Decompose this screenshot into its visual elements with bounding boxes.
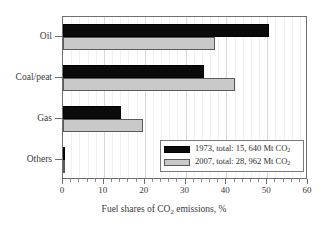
x-tick-label-60: 60 xyxy=(295,185,319,196)
bar-coal-peat-2007 xyxy=(63,78,235,91)
x-tick-minor xyxy=(95,179,96,182)
y-tick-label-oil: Oil xyxy=(40,31,52,41)
x-tick-minor xyxy=(87,179,88,182)
bar-oil-1973 xyxy=(63,24,269,37)
co2-subscript: 2 xyxy=(287,160,290,166)
legend-swatch-1973 xyxy=(164,146,190,153)
x-tick-major xyxy=(225,179,226,184)
x-tick-minor xyxy=(111,179,112,182)
legend-label-1973: 1973, total: 15, 640 Mt CO2 xyxy=(195,144,290,155)
x-tick-minor xyxy=(136,179,137,182)
y-tick-label-gas: Gas xyxy=(37,113,52,123)
x-tick-minor xyxy=(193,179,194,182)
x-tick-major xyxy=(185,179,186,184)
bar-gas-1973 xyxy=(63,106,121,119)
x-tick-minor xyxy=(283,179,284,182)
x-tick-label-50: 50 xyxy=(254,185,278,196)
legend-swatch-2007 xyxy=(164,159,190,166)
x-tick-minor xyxy=(70,179,71,182)
x-tick-label-40: 40 xyxy=(213,185,237,196)
y-tick xyxy=(55,159,63,160)
x-tick-minor xyxy=(217,179,218,182)
x-tick-minor xyxy=(176,179,177,182)
x-tick-major xyxy=(62,179,63,184)
x-tick-label-0: 0 xyxy=(50,185,74,196)
x-tick-minor xyxy=(291,179,292,182)
bar-others-2007 xyxy=(63,160,65,173)
x-tick-minor xyxy=(250,179,251,182)
co2-subscript: 2 xyxy=(287,147,290,153)
bar-others-1973 xyxy=(63,147,65,160)
y-tick xyxy=(55,118,63,119)
bar-oil-2007 xyxy=(63,37,215,50)
x-tick-minor xyxy=(119,179,120,182)
co2-subscript: 2 xyxy=(170,208,173,215)
bar-coal-peat-1973 xyxy=(63,65,204,78)
y-tick-label-others: Others xyxy=(27,154,52,164)
x-tick-label-10: 10 xyxy=(91,185,115,196)
bar-gas-2007 xyxy=(63,119,143,132)
y-tick-label-coal-peat: Coal/peat xyxy=(16,72,52,82)
x-tick-minor xyxy=(258,179,259,182)
y-tick xyxy=(55,77,63,78)
x-tick-minor xyxy=(299,179,300,182)
chart-legend: 1973, total: 15, 640 Mt CO22007, total: … xyxy=(160,140,304,172)
x-tick-minor xyxy=(234,179,235,182)
legend-item-2007: 2007, total: 28, 962 Mt CO2 xyxy=(164,156,300,169)
x-tick-major xyxy=(144,179,145,184)
x-tick-label-20: 20 xyxy=(132,185,156,196)
chart-figure: OilCoal/peatGasOthers 0102030405060 Fuel… xyxy=(0,0,328,229)
x-tick-minor xyxy=(160,179,161,182)
x-tick-minor xyxy=(168,179,169,182)
x-tick-major xyxy=(307,179,308,184)
x-tick-major xyxy=(266,179,267,184)
legend-label-2007: 2007, total: 28, 962 Mt CO2 xyxy=(195,157,290,168)
x-tick-minor xyxy=(127,179,128,182)
x-tick-minor xyxy=(242,179,243,182)
x-tick-minor xyxy=(209,179,210,182)
x-tick-major xyxy=(103,179,104,184)
x-tick-minor xyxy=(274,179,275,182)
legend-item-1973: 1973, total: 15, 640 Mt CO2 xyxy=(164,143,300,156)
x-tick-minor xyxy=(201,179,202,182)
y-tick xyxy=(55,36,63,37)
x-tick-minor xyxy=(152,179,153,182)
x-tick-minor xyxy=(78,179,79,182)
x-axis-title: Fuel shares of CO2 emissions, % xyxy=(0,203,328,218)
x-tick-label-30: 30 xyxy=(173,185,197,196)
